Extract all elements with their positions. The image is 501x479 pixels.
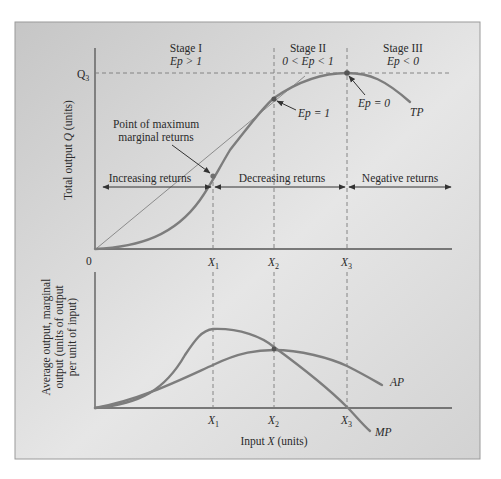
bottom-x-axis-label: Input X (units): [240, 435, 307, 448]
tp-label: TP: [410, 106, 423, 118]
stage2-title: Stage II: [290, 42, 326, 55]
production-stages-diagram: Stage I Ep > 1 Stage II 0 < Ep < 1 Stage…: [0, 0, 501, 479]
ep0-label: Ep = 0: [357, 97, 390, 110]
stage1-title: Stage I: [170, 42, 202, 55]
max-marginal-label-line1: Point of maximum: [113, 118, 199, 130]
ep1-label: Ep = 1: [297, 107, 330, 120]
top-y-axis-label: Total output Q (units): [62, 100, 75, 200]
mp-label: MP: [374, 426, 392, 438]
bottom-y-axis-label-line1: Average output, marginal: [40, 279, 53, 396]
stage3-title: Stage III: [383, 42, 423, 55]
ap-label: AP: [389, 376, 404, 388]
stage2-cond: 0 < Ep < 1: [282, 55, 333, 68]
bottom-y-axis-label-line2: output (units of output: [53, 285, 66, 389]
origin-label: 0: [86, 255, 92, 267]
ep1-point: [271, 96, 276, 101]
ap-mp-intersection-point: [272, 347, 277, 352]
stage3-cond: Ep < 0: [386, 55, 419, 68]
increasing-returns-label: Increasing returns: [109, 172, 192, 185]
max-marginal-point: [210, 173, 215, 178]
ep0-point: [344, 70, 350, 76]
negative-returns-label: Negative returns: [362, 172, 439, 185]
bottom-y-axis-label-line3: per unit of input): [66, 298, 79, 376]
max-marginal-label-line2: marginal returns: [118, 131, 194, 144]
stage1-cond: Ep > 1: [169, 55, 202, 68]
decreasing-returns-label: Decreasing returns: [239, 172, 326, 185]
